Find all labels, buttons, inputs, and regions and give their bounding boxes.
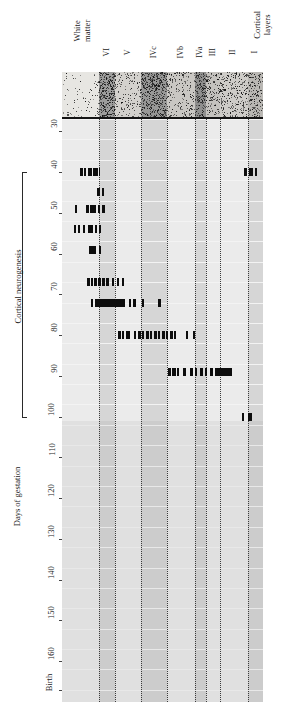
data-mark (91, 299, 93, 307)
data-mark (190, 368, 193, 376)
y-tick-50: 50 (2, 201, 58, 210)
data-mark (78, 225, 80, 233)
layer-column-iva (195, 119, 206, 702)
data-mark (90, 205, 96, 213)
gridline (62, 343, 263, 344)
y-tick-110: 110 (2, 445, 58, 454)
y-tick-90: 90 (2, 364, 58, 373)
data-mark (129, 299, 131, 307)
data-mark (88, 225, 93, 233)
gridline (62, 139, 263, 140)
data-mark (200, 368, 203, 376)
y-tickmark (59, 335, 62, 336)
data-mark (162, 331, 165, 339)
divider-ivc (141, 119, 142, 702)
gridline (62, 384, 263, 385)
data-mark (249, 168, 253, 176)
data-mark (88, 168, 92, 176)
data-mark (242, 413, 244, 421)
y-tick-80: 80 (2, 323, 58, 332)
gridline (62, 669, 263, 670)
data-mark (146, 331, 149, 339)
header-labels: White matter Cortical layers VIVIVcIVbIV… (0, 0, 285, 70)
y-tickmark (59, 580, 62, 581)
data-mark (170, 331, 173, 339)
layer-label-i: I (242, 48, 270, 57)
data-mark (106, 278, 109, 286)
data-mark (74, 225, 76, 233)
y-tickmark (59, 417, 62, 418)
data-mark (98, 278, 101, 286)
y-tickmark (59, 213, 62, 214)
data-mark (183, 368, 186, 376)
layer-label-v: V (114, 48, 142, 57)
y-tick-100: 100 (2, 405, 58, 414)
gridline (62, 527, 263, 528)
data-mark (117, 278, 119, 286)
plot-area (62, 72, 263, 702)
layer-column-i (248, 119, 263, 702)
divider-i (248, 119, 249, 702)
gridline (62, 608, 263, 609)
histology-stipple (62, 72, 263, 119)
data-mark (248, 413, 252, 421)
data-mark (126, 331, 130, 339)
data-mark (97, 188, 100, 196)
gridline (62, 364, 263, 365)
data-mark (134, 331, 136, 339)
gridline (62, 506, 263, 507)
data-mark (83, 225, 85, 233)
data-mark (154, 331, 157, 339)
data-mark (210, 368, 213, 376)
data-mark (174, 331, 176, 339)
data-mark (102, 278, 105, 286)
divider-iii (206, 119, 207, 702)
gridline (62, 568, 263, 569)
gridline (62, 323, 263, 324)
gridline (62, 690, 263, 691)
y-tickmark (59, 131, 62, 132)
data-mark (98, 205, 100, 213)
data-mark (150, 331, 152, 339)
gridline (62, 425, 263, 426)
divider-ivb (167, 119, 168, 702)
data-mark (142, 299, 144, 307)
y-axis: 30405060708090100110120130140150160Birth… (0, 72, 62, 702)
layer-column-ivc (141, 119, 167, 702)
data-mark (158, 299, 161, 307)
y-tickmark (59, 254, 62, 255)
data-mark (193, 331, 195, 339)
gridline (62, 547, 263, 548)
y-tickmark (59, 376, 62, 377)
data-mark (177, 368, 179, 376)
gridline (62, 262, 263, 263)
data-mark (142, 331, 144, 339)
y-tick-30: 30 (2, 119, 58, 128)
y-tick-40: 40 (2, 160, 58, 169)
gridline (62, 241, 263, 242)
data-mark (122, 278, 124, 286)
y-tick-160: 160 (2, 649, 58, 658)
y-tickmark (59, 172, 62, 173)
data-mark (186, 331, 188, 339)
divider-iva (195, 119, 196, 702)
gridline (62, 180, 263, 181)
layer-label-ivc: IVc (140, 48, 168, 57)
data-mark (94, 278, 97, 286)
y-tick-60: 60 (2, 242, 58, 251)
gridline (62, 160, 263, 161)
gridline (62, 486, 263, 487)
birthdating-grid (62, 119, 263, 702)
data-mark (168, 368, 171, 376)
gridline (62, 466, 263, 467)
gridline (62, 201, 263, 202)
data-mark (138, 331, 141, 339)
data-mark (166, 331, 168, 339)
data-mark (99, 225, 101, 233)
data-mark (244, 168, 247, 176)
data-mark (118, 331, 121, 339)
divider-ii (220, 119, 221, 702)
data-mark (99, 246, 101, 254)
data-mark (195, 368, 197, 376)
gridline (62, 445, 263, 446)
